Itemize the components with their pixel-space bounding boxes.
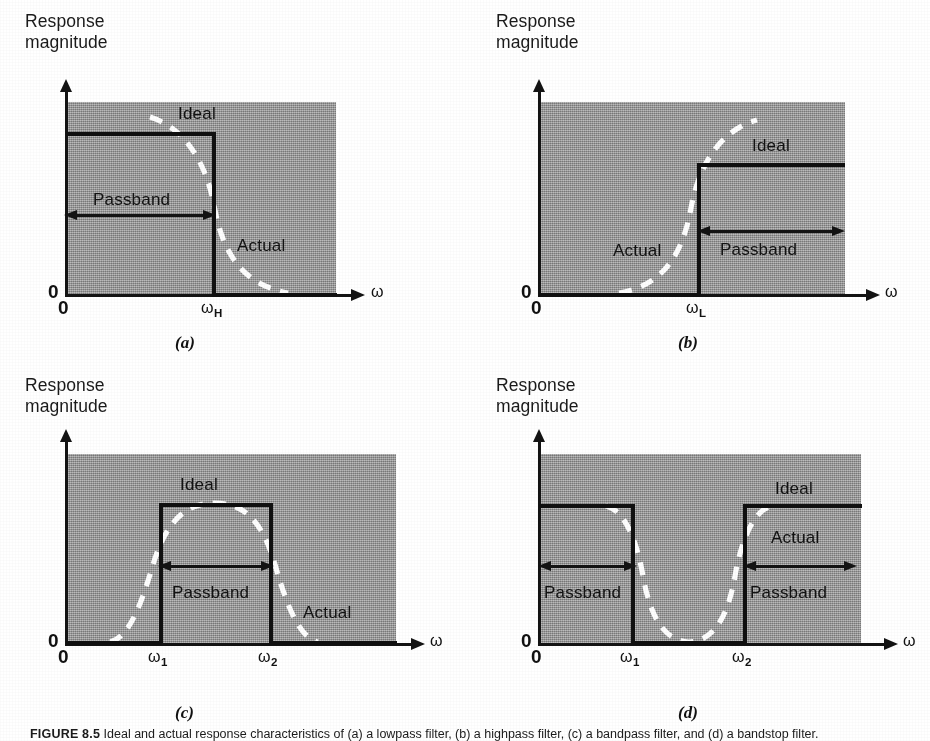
passband-right-arrow-left-head-icon <box>743 561 756 571</box>
omega-subscript: 2 <box>745 656 751 668</box>
actual-label: Actual <box>303 603 351 623</box>
panel-letter-c: (c) <box>175 703 194 723</box>
passband-left-arrow-left-head-icon <box>538 561 551 571</box>
y-axis-arrow-icon <box>60 79 72 92</box>
ideal-passband-left-level <box>539 504 635 508</box>
x-axis-arrow-icon <box>351 289 365 301</box>
y-axis-arrow-icon <box>533 79 545 92</box>
ideal-passband-right-level <box>743 504 862 508</box>
omega-subscript: 2 <box>271 656 277 668</box>
omega-subscript: 1 <box>633 656 639 668</box>
passband-label: Passband <box>720 240 797 260</box>
passband-arrow-left-head-icon <box>64 210 77 220</box>
x-axis-origin-tick: 0 <box>531 646 542 668</box>
omega-symbol: ω <box>620 648 633 665</box>
figure-caption-text: Ideal and actual response characteristic… <box>100 727 818 741</box>
y-axis-zero-tick: 0 <box>48 630 59 652</box>
y-axis <box>538 440 541 644</box>
axis-title-response-magnitude: Response magnitude <box>25 11 108 53</box>
ideal-stopband-level <box>212 293 337 297</box>
figure-caption: FIGURE 8.5 Ideal and actual response cha… <box>30 727 910 741</box>
ideal-passband-level <box>697 163 845 167</box>
y-axis-zero-tick: 0 <box>521 630 532 652</box>
ideal-lower-cutoff-edge <box>631 504 635 644</box>
passband-left-arrow-right-head-icon <box>624 561 637 571</box>
actual-label: Actual <box>237 236 285 256</box>
passband-right-arrow-line <box>751 565 847 568</box>
x-axis-arrow-icon <box>411 638 425 650</box>
omega-symbol: ω <box>201 299 214 316</box>
ideal-stopband-right <box>269 641 397 645</box>
passband-left-arrow-line <box>546 565 628 568</box>
ideal-label: Ideal <box>178 104 216 124</box>
x-axis-origin-tick: 0 <box>58 646 69 668</box>
axis-title-response-magnitude: Response magnitude <box>496 375 579 417</box>
passband-arrow-line <box>72 214 206 217</box>
passband-right-label: Passband <box>750 583 827 603</box>
ideal-passband-level <box>66 132 216 136</box>
figure-number: FIGURE 8.5 <box>30 727 100 741</box>
x-axis-origin-tick: 0 <box>531 297 542 319</box>
panel-letter-b: (b) <box>678 333 698 353</box>
y-axis-zero-tick: 0 <box>48 281 59 303</box>
panel-letter-d: (d) <box>678 703 698 723</box>
omega-subscript: 1 <box>161 656 167 668</box>
passband-arrow-left-head-icon <box>697 226 710 236</box>
x-axis-upper-cutoff-tick: ω2 <box>258 648 277 666</box>
ideal-stopband-level <box>631 641 747 645</box>
ideal-stopband-level <box>539 293 700 297</box>
ideal-stopband-left <box>66 641 162 645</box>
y-axis-zero-tick: 0 <box>521 281 532 303</box>
x-axis-label-omega: ω <box>430 632 443 650</box>
x-axis-label-omega: ω <box>885 283 898 301</box>
ideal-upper-cutoff-edge <box>269 503 273 643</box>
ideal-label: Ideal <box>752 136 790 156</box>
omega-subscript: L <box>699 307 706 319</box>
passband-arrow-line <box>166 565 265 568</box>
x-axis-cutoff-tick: ωL <box>686 299 706 317</box>
axis-title-response-magnitude: Response magnitude <box>25 375 108 417</box>
y-axis-arrow-icon <box>533 429 545 442</box>
omega-symbol: ω <box>258 648 271 665</box>
panel-bandstop: Response magnitude Ideal Actual Passband… <box>465 360 930 720</box>
x-axis-lower-cutoff-tick: ω1 <box>620 648 639 666</box>
panel-lowpass: Response magnitude Ideal Actual Passband… <box>0 0 465 360</box>
panel-bandpass: Response magnitude Ideal Actual Passband… <box>0 360 465 720</box>
x-axis-label-omega: ω <box>371 283 384 301</box>
ideal-passband-level <box>159 503 273 507</box>
actual-label: Actual <box>613 241 661 261</box>
omega-symbol: ω <box>148 648 161 665</box>
passband-arrow-right-head-icon <box>203 210 216 220</box>
passband-arrow-right-head-icon <box>832 226 845 236</box>
ideal-label: Ideal <box>180 475 218 495</box>
passband-arrow-right-head-icon <box>261 561 274 571</box>
omega-subscript: H <box>214 307 222 319</box>
x-axis-label-omega: ω <box>903 632 916 650</box>
passband-right-arrow-right-head-icon <box>844 561 857 571</box>
axis-title-response-magnitude: Response magnitude <box>496 11 579 53</box>
passband-arrow-left-head-icon <box>158 561 171 571</box>
omega-symbol: ω <box>732 648 745 665</box>
y-axis <box>538 90 541 296</box>
y-axis <box>65 90 68 296</box>
x-axis-origin-tick: 0 <box>58 297 69 319</box>
x-axis-lower-cutoff-tick: ω1 <box>148 648 167 666</box>
x-axis-upper-cutoff-tick: ω2 <box>732 648 751 666</box>
shaded-plot-region <box>539 102 845 295</box>
passband-label: Passband <box>93 190 170 210</box>
actual-label: Actual <box>771 528 819 548</box>
omega-symbol: ω <box>686 299 699 316</box>
ideal-upper-cutoff-edge <box>743 504 747 644</box>
x-axis-arrow-icon <box>866 289 880 301</box>
passband-left-label: Passband <box>544 583 621 603</box>
x-axis-cutoff-tick: ωH <box>201 299 222 317</box>
x-axis-arrow-icon <box>884 638 898 650</box>
panel-highpass: Response magnitude Ideal Actual Passband… <box>465 0 930 360</box>
y-axis-arrow-icon <box>60 429 72 442</box>
panel-letter-a: (a) <box>175 333 195 353</box>
passband-label: Passband <box>172 583 249 603</box>
y-axis <box>65 440 68 644</box>
ideal-label: Ideal <box>775 479 813 499</box>
passband-arrow-line <box>705 230 835 233</box>
ideal-lower-cutoff-edge <box>159 503 163 643</box>
